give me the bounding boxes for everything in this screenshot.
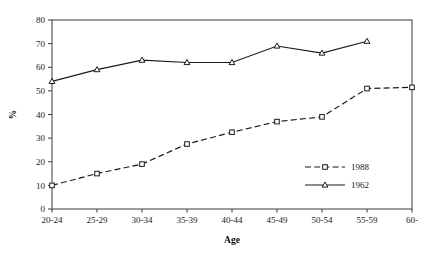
data-point-marker-square (50, 183, 55, 188)
data-point-marker-square (275, 119, 280, 124)
legend-item-1962[interactable]: 1962 (305, 180, 369, 190)
legend-label: 1962 (351, 180, 369, 190)
series-line (52, 41, 367, 81)
x-tick-label: 45-49 (267, 215, 288, 225)
data-point-marker-square (230, 130, 235, 135)
y-tick-label: 70 (36, 39, 46, 49)
data-point-marker-square (95, 171, 100, 176)
data-point-marker-square (140, 162, 145, 167)
y-tick-label: 10 (36, 181, 46, 191)
x-tick-label: 60- (406, 215, 418, 225)
x-tick-label: 20-24 (42, 215, 63, 225)
data-point-marker-triangle (274, 43, 280, 48)
chart-container: 01020304050607080 20-2425-2930-3435-3940… (0, 0, 442, 259)
data-point-marker-square (185, 142, 190, 147)
series-1962 (49, 38, 370, 83)
y-axis-title: % (8, 110, 18, 120)
y-tick-label: 80 (36, 15, 46, 25)
data-point-marker-square (410, 85, 415, 90)
data-point-marker-square (323, 165, 328, 170)
x-tick-label: 25-29 (87, 215, 108, 225)
data-point-marker-square (365, 86, 370, 91)
y-tick-label: 0 (41, 204, 46, 214)
x-tick-label: 30-34 (132, 215, 153, 225)
legend-item-1988[interactable]: 1988 (305, 162, 370, 172)
data-point-marker-triangle (364, 38, 370, 43)
legend-label: 1988 (351, 162, 370, 172)
line-chart: 01020304050607080 20-2425-2930-3435-3940… (0, 0, 442, 259)
x-tick-label: 40-44 (222, 215, 243, 225)
y-tick-label: 50 (36, 86, 46, 96)
x-axis-ticks: 20-2425-2930-3435-3940-4445-4950-5455-59… (42, 209, 419, 225)
x-tick-label: 35-39 (177, 215, 198, 225)
y-tick-label: 60 (36, 62, 46, 72)
x-tick-label: 50-54 (312, 215, 333, 225)
x-axis-title: Age (224, 235, 240, 245)
x-tick-label: 55-59 (357, 215, 378, 225)
y-tick-label: 30 (36, 133, 46, 143)
data-point-marker-square (320, 115, 325, 120)
y-tick-label: 40 (36, 110, 46, 120)
chart-legend: 19881962 (305, 162, 370, 190)
y-tick-label: 20 (36, 157, 46, 167)
